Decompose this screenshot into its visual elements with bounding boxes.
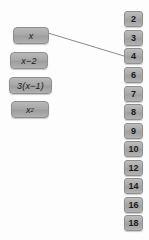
number-tile-label: 8 — [131, 107, 136, 117]
number-tile[interactable]: 7 — [124, 86, 143, 102]
number-tile-label: 16 — [128, 200, 138, 210]
number-tile[interactable]: 4 — [124, 48, 143, 64]
expression-tile[interactable]: x−2 — [10, 52, 48, 69]
number-tile[interactable]: 12 — [124, 160, 143, 176]
expression-tile[interactable]: x — [13, 27, 49, 44]
expression-label: x−2 — [21, 56, 36, 66]
number-tile[interactable]: 3 — [124, 30, 143, 46]
number-tile-label: 9 — [131, 126, 136, 136]
number-tile[interactable]: 10 — [124, 141, 143, 157]
number-tile-label: 10 — [128, 144, 138, 154]
number-tile-label: 3 — [131, 33, 136, 43]
expression-base: x — [26, 105, 31, 115]
number-tile[interactable]: 16 — [124, 197, 143, 213]
expression-tile[interactable]: x2 — [11, 101, 49, 118]
number-tile[interactable]: 14 — [124, 178, 143, 194]
number-tile-label: 7 — [131, 89, 136, 99]
number-tile-label: 18 — [128, 218, 138, 228]
number-tile[interactable]: 2 — [124, 11, 143, 27]
number-tile[interactable]: 8 — [124, 104, 143, 120]
expression-label: x — [29, 31, 34, 41]
matching-exercise-canvas: xx−23(x−1)x2 23467891012141618 — [0, 0, 149, 240]
number-tile-label: 6 — [131, 70, 136, 80]
number-tile[interactable]: 6 — [124, 67, 143, 83]
expression-label: 3(x−1) — [17, 81, 44, 91]
match-connector-line — [48, 33, 124, 56]
number-tile[interactable]: 9 — [124, 123, 143, 139]
number-tile-label: 4 — [131, 51, 136, 61]
number-tile-label: 2 — [131, 14, 136, 24]
expression-tile[interactable]: 3(x−1) — [9, 77, 52, 94]
number-tile-label: 12 — [128, 163, 138, 173]
number-tile-label: 14 — [128, 181, 138, 191]
number-tile[interactable]: 18 — [124, 215, 143, 231]
